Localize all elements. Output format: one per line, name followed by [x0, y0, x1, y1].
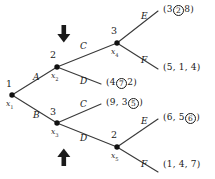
- payoff-t3: (472): [106, 78, 137, 89]
- node-label-x3-sub: 3: [55, 132, 58, 138]
- player-number-x3: 3: [50, 107, 56, 117]
- payoff-t2: (5, 1, 4): [163, 63, 201, 72]
- arrow-down-icon: [57, 25, 70, 43]
- node-dot-x1: [9, 92, 14, 97]
- edge-F-upper: [117, 43, 158, 69]
- player-number-x1: 1: [6, 79, 12, 89]
- payoff-value: 3: [167, 4, 173, 14]
- payoff-value: 2: [127, 77, 133, 87]
- node-label-x2-sub: 2: [55, 76, 58, 82]
- player-number-x2: 2: [50, 50, 56, 60]
- payoff-t4: (9, 35): [106, 98, 143, 109]
- payoff-value: 3: [122, 97, 128, 107]
- payoff-t6: (1, 4, 7): [163, 160, 201, 169]
- tree-branches: [0, 0, 215, 179]
- annotation-arrows: [57, 25, 70, 166]
- node-label-x3: x3: [51, 128, 59, 138]
- node-label-x4-sub: 4: [115, 52, 118, 58]
- action-label-D-lower: D: [80, 134, 87, 143]
- edge-C-upper: [57, 43, 117, 67]
- payoff-value: 4: [191, 62, 197, 72]
- arrow-up-icon: [57, 149, 70, 167]
- node-label-x5: x5: [111, 152, 119, 162]
- payoff-t5: (6, 56): [163, 113, 200, 124]
- edge-F-lower: [117, 147, 158, 172]
- action-label-B: B: [33, 111, 40, 120]
- circled-payoff: 5: [128, 98, 139, 109]
- payoff-value: 5: [167, 62, 173, 72]
- node-label-x1-sub: 1: [10, 104, 13, 110]
- action-label-E-upper: E: [141, 12, 148, 21]
- payoff-value: 1: [179, 62, 185, 72]
- circled-payoff: 7: [116, 78, 127, 89]
- action-label-D-upper: D: [80, 77, 87, 86]
- edge-C-lower: [57, 104, 101, 123]
- payoff-value: 4: [110, 77, 116, 87]
- node-label-x4: x4: [111, 48, 119, 58]
- action-label-F-upper: F: [141, 56, 147, 65]
- payoff-value: 8: [184, 4, 190, 14]
- action-label-F-lower: F: [141, 160, 147, 169]
- action-label-C-lower: C: [80, 100, 87, 109]
- action-label-C-upper: C: [80, 42, 87, 51]
- edge-E-lower: [117, 119, 158, 147]
- circled-payoff: 2: [173, 5, 184, 16]
- payoff-value: 4: [179, 159, 185, 169]
- circled-payoff: 6: [185, 113, 196, 124]
- payoff-t1: (328): [163, 5, 194, 16]
- edge-E-upper: [117, 11, 158, 43]
- payoff-value: 9: [110, 97, 116, 107]
- node-label-x2: x2: [51, 72, 59, 82]
- payoff-value: 1: [167, 159, 173, 169]
- payoff-value: 6: [167, 112, 173, 122]
- player-number-x4: 3: [111, 26, 117, 36]
- edge-D-upper: [57, 67, 101, 84]
- node-dot-x4: [114, 40, 119, 45]
- node-dot-x3: [54, 120, 59, 125]
- node-label-x5-sub: 5: [115, 156, 118, 162]
- payoff-value: 5: [179, 112, 185, 122]
- node-dot-x5: [114, 144, 119, 149]
- payoff-value: 7: [191, 159, 197, 169]
- node-dot-x2: [54, 64, 59, 69]
- player-number-x5: 2: [111, 130, 117, 140]
- action-label-E-lower: E: [141, 117, 148, 126]
- node-label-x1: x1: [6, 100, 14, 110]
- game-tree-figure: 1 2 3 3 2 x1 x2 x3 x4 x5 A B C D C D E F…: [0, 0, 215, 179]
- action-label-A: A: [33, 73, 40, 82]
- decision-nodes: [9, 40, 119, 149]
